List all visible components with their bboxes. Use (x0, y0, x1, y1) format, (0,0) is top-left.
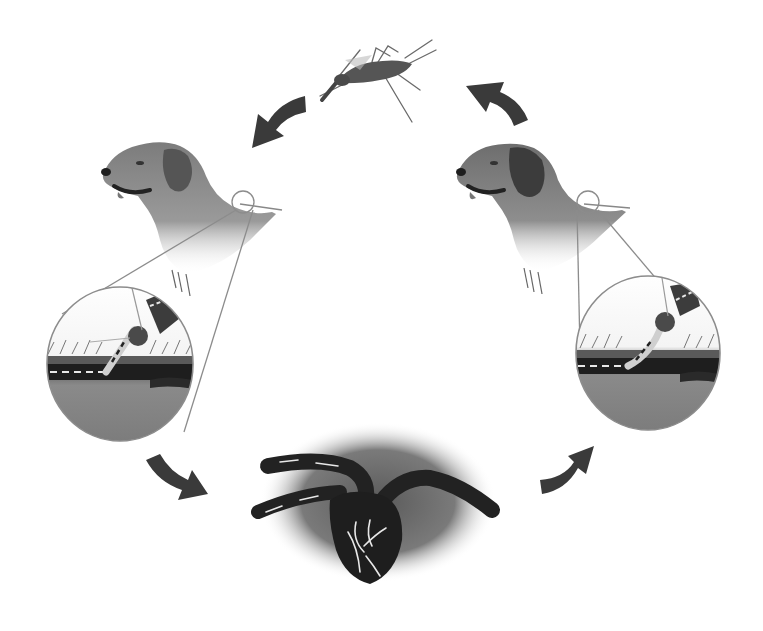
arrow-mosquito-to-dog-left (252, 96, 306, 148)
arrow-heart-to-dog-right (540, 446, 594, 494)
bite-detail-left (40, 280, 210, 450)
mosquito-illustration (320, 40, 436, 122)
heartworm-lifecycle-diagram: Heartworm life cycle Cyclic illustration… (0, 0, 763, 631)
bite-detail-right (570, 270, 730, 440)
heart-with-heartworms (258, 422, 496, 584)
arrow-dog-left-to-heart (146, 454, 208, 500)
arrow-dog-right-to-mosquito (466, 82, 528, 126)
